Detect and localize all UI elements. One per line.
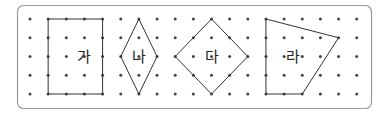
grid-dot — [337, 55, 340, 58]
grid-dot — [119, 18, 122, 21]
grid-dot — [319, 55, 322, 58]
grid-dot — [319, 74, 322, 77]
grid-dot — [174, 36, 177, 39]
grid-dot — [156, 18, 159, 21]
grid-dot — [119, 74, 122, 77]
grid-dot — [29, 55, 32, 58]
grid-dot — [65, 74, 68, 77]
grid-dot — [83, 74, 86, 77]
grid-dot — [192, 93, 195, 96]
grid-dot — [337, 93, 340, 96]
grid-dot — [355, 36, 358, 39]
grid-dot — [174, 18, 177, 21]
grid-dot — [119, 93, 122, 96]
grid-dot — [319, 93, 322, 96]
grid-dot — [65, 55, 68, 58]
grid-dot — [119, 36, 122, 39]
grid-dot — [301, 36, 304, 39]
grid-dot — [192, 18, 195, 21]
grid-dot — [337, 18, 340, 21]
grid-dot — [283, 55, 286, 58]
grid-dot — [137, 74, 140, 77]
shape-ra-label: 라 — [286, 48, 300, 66]
grid-dot — [65, 36, 68, 39]
grid-dot — [246, 74, 249, 77]
grid-dot — [246, 18, 249, 21]
grid-dot — [301, 55, 304, 58]
grid-dot — [283, 74, 286, 77]
grid-dot — [29, 74, 32, 77]
grid-dot — [355, 55, 358, 58]
grid-dot — [83, 36, 86, 39]
grid-dot — [156, 36, 159, 39]
grid-dot — [210, 36, 213, 39]
grid-dot — [355, 74, 358, 77]
grid-dot — [228, 93, 231, 96]
grid-dot — [283, 36, 286, 39]
grid-dot — [137, 36, 140, 39]
grid-dot — [156, 93, 159, 96]
shape-na-label: 나 — [132, 48, 146, 66]
grid-dot — [210, 74, 213, 77]
grid-dot — [174, 74, 177, 77]
grid-dot — [246, 36, 249, 39]
shape-ga-label: 가 — [77, 48, 91, 66]
grid-dot — [337, 74, 340, 77]
grid-dot — [192, 55, 195, 58]
grid-dot — [228, 55, 231, 58]
grid-dot — [319, 36, 322, 39]
grid-dot — [228, 18, 231, 21]
grid-dot — [156, 74, 159, 77]
grid-dot — [29, 93, 32, 96]
grid-dot — [301, 74, 304, 77]
dot-grid-board: 가나다라 — [0, 0, 382, 117]
shape-da-label: 다 — [205, 48, 219, 66]
grid-dot — [355, 93, 358, 96]
grid-dot — [283, 18, 286, 21]
grid-dot — [174, 93, 177, 96]
grid-dot — [319, 18, 322, 21]
grid-dot — [29, 36, 32, 39]
grid-dot — [301, 18, 304, 21]
grid-dot — [246, 93, 249, 96]
grid-dot — [29, 18, 32, 21]
grid-dot — [355, 18, 358, 21]
